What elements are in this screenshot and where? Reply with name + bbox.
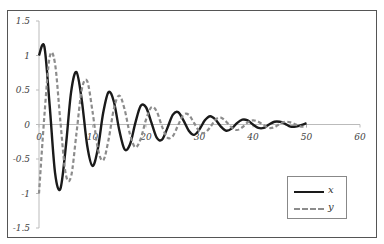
y-tick-label: 0 [24, 120, 30, 130]
legend-label-y: y [328, 201, 334, 212]
y-tick-label: 1 [24, 51, 30, 61]
x-tick-label: 0 [36, 132, 42, 142]
y-tick-label: -0.5 [13, 154, 31, 164]
legend: x y [287, 176, 347, 219]
series-group [39, 44, 307, 193]
legend-item-y: y [294, 202, 346, 214]
legend-item-x: x [294, 185, 346, 197]
y-tick-label: 1.5 [16, 16, 31, 26]
legend-label-x: x [328, 184, 334, 195]
x-tick-label: 40 [246, 132, 259, 142]
y-tick-label: -1.5 [13, 223, 31, 233]
series-line-y [39, 52, 307, 193]
y-tick-label: -1 [21, 189, 30, 199]
dashed-line-icon [294, 208, 324, 210]
x-tick-label: 60 [354, 132, 366, 142]
y-tick-label: 0.5 [16, 85, 31, 95]
solid-line-icon [294, 191, 324, 193]
x-tick-label: 50 [301, 132, 313, 142]
